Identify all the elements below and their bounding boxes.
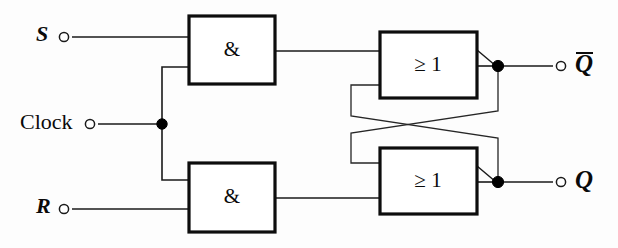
input-label-clock: Clock — [20, 109, 73, 134]
output-label-q: Q — [575, 166, 593, 193]
wire-clock-up-to-and-top — [162, 67, 189, 124]
circuit-diagram-canvas: & & ≥ 1 ≥ 1 S Clock R Q Q — [0, 0, 618, 248]
output-terminal-q-not[interactable] — [556, 61, 565, 70]
output-terminal-q[interactable] — [556, 177, 565, 186]
output-terminal-group: Q Q — [556, 50, 593, 193]
input-terminal-clock[interactable] — [85, 119, 94, 128]
input-label-s: S — [36, 21, 48, 46]
junction-dot-q-not — [492, 60, 503, 71]
input-terminal-r[interactable] — [59, 204, 68, 213]
or-gate-top-label: ≥ 1 — [414, 52, 441, 76]
circuit-schematic-svg: & & ≥ 1 ≥ 1 S Clock R Q Q — [0, 0, 618, 248]
or-gate-bottom-label: ≥ 1 — [414, 168, 441, 192]
and-gate-bottom-label: & — [224, 184, 240, 208]
input-terminal-s[interactable] — [59, 32, 68, 41]
junction-dot-q — [492, 176, 503, 187]
wire-group — [72, 37, 553, 209]
input-terminal-group: S Clock R — [20, 21, 95, 218]
input-label-r: R — [35, 193, 51, 218]
and-gate-top-label: & — [224, 37, 240, 61]
wire-clock-down-to-and-bottom — [162, 124, 189, 180]
junction-dot-clock-fanout — [157, 119, 167, 129]
negation-wedge-group — [477, 50, 496, 182]
